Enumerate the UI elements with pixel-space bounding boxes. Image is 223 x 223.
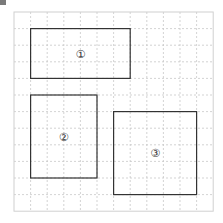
grid-diagram — [0, 0, 223, 223]
shape-label-3: ③ — [150, 148, 160, 159]
shape-label-2: ② — [59, 131, 69, 142]
shape-label-1: ① — [75, 48, 85, 59]
